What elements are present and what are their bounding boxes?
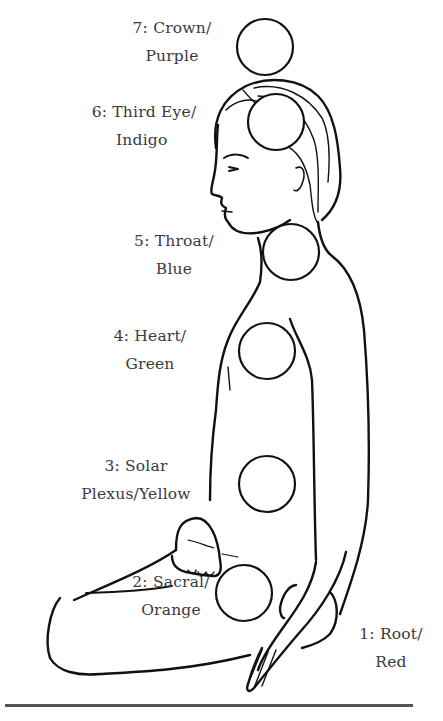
label-root: 1: Root/ Red bbox=[354, 620, 428, 676]
label-third-eye-line1: 6: Third Eye/ bbox=[82, 98, 206, 126]
label-solar-plexus: 3: Solar Plexus/Yellow bbox=[74, 452, 198, 508]
chakra-circle-heart bbox=[239, 323, 295, 379]
foot-line2 bbox=[222, 554, 238, 557]
label-root-line2: Red bbox=[354, 648, 428, 676]
ear bbox=[294, 167, 304, 191]
back-neck-shoulder bbox=[318, 222, 369, 614]
label-solar-plexus-line2: Plexus/Yellow bbox=[74, 480, 198, 508]
label-sacral-line1: 2: Sacral/ bbox=[126, 568, 216, 596]
label-third-eye: 6: Third Eye/ Indigo bbox=[82, 98, 206, 154]
chakra-circle-crown bbox=[237, 19, 293, 75]
label-heart: 4: Heart/ Green bbox=[108, 322, 192, 378]
buttock-lobe bbox=[302, 592, 337, 648]
bottom-divider-line bbox=[5, 704, 413, 707]
label-root-line1: 1: Root/ bbox=[354, 620, 428, 648]
mouth bbox=[222, 211, 232, 212]
eyebrow bbox=[224, 155, 248, 158]
label-throat-line2: Blue bbox=[126, 255, 222, 283]
arm-inner bbox=[228, 367, 230, 390]
label-sacral-line2: Orange bbox=[126, 596, 216, 624]
label-crown-line1: 7: Crown/ bbox=[122, 14, 222, 42]
hair-strand bbox=[243, 90, 256, 104]
label-solar-plexus-line1: 3: Solar bbox=[74, 452, 198, 480]
foot-line bbox=[188, 540, 214, 548]
label-crown: 7: Crown/ Purple bbox=[122, 14, 222, 70]
label-sacral: 2: Sacral/ Orange bbox=[126, 568, 216, 624]
chakra-circle-solar-plexus bbox=[239, 456, 295, 512]
chakra-circle-throat bbox=[263, 224, 319, 280]
label-heart-line1: 4: Heart/ bbox=[108, 322, 192, 350]
label-crown-line2: Purple bbox=[122, 42, 222, 70]
chakra-circle-sacral bbox=[216, 565, 272, 621]
eye bbox=[229, 167, 238, 171]
label-third-eye-line2: Indigo bbox=[82, 126, 206, 154]
chakra-diagram: 7: Crown/ Purple 6: Third Eye/ Indigo 5:… bbox=[0, 0, 443, 721]
chakra-circle-third-eye bbox=[248, 94, 304, 150]
label-throat-line1: 5: Throat/ bbox=[126, 227, 222, 255]
seated-figure-illustration bbox=[0, 0, 443, 721]
label-throat: 5: Throat/ Blue bbox=[126, 227, 222, 283]
label-heart-line2: Green bbox=[108, 350, 192, 378]
